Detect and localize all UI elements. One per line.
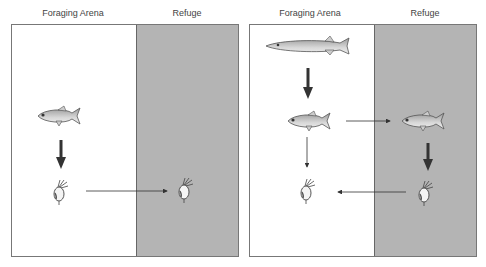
diagram-overlay	[0, 0, 486, 267]
zooplankton-icon	[301, 179, 315, 204]
strong-arrow-icon	[303, 87, 313, 99]
zooplankton-icon	[419, 181, 433, 206]
small-fish-icon	[38, 106, 80, 126]
zooplankton-icon	[54, 180, 68, 205]
pike-icon	[266, 36, 349, 55]
small-fish-icon	[402, 111, 444, 131]
small-fish-icon	[288, 111, 330, 131]
strong-arrow-icon	[423, 159, 433, 171]
zooplankton-icon	[179, 178, 193, 203]
strong-arrow-icon	[56, 157, 66, 169]
